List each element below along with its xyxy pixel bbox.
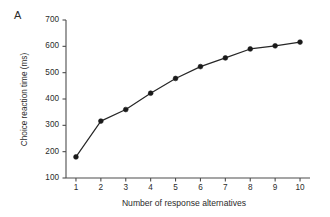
y-axis-label: Choice reaction time (ms) [20, 30, 29, 170]
y-tick-label: 300 [33, 121, 59, 129]
x-tick-label: 2 [93, 184, 109, 192]
data-point-marker [198, 64, 203, 69]
x-tick-label: 5 [168, 184, 184, 192]
x-tick-label: 3 [118, 184, 134, 192]
x-tick-label: 4 [143, 184, 159, 192]
x-tick-label: 8 [242, 184, 258, 192]
y-tick-label: 200 [33, 148, 59, 156]
data-point-marker [273, 43, 278, 48]
data-point-marker [123, 107, 128, 112]
y-tick-label: 500 [33, 69, 59, 77]
x-tick-label: 1 [68, 184, 84, 192]
data-point-marker [298, 40, 303, 45]
y-tick-label: 400 [33, 95, 59, 103]
data-point-marker [148, 91, 153, 96]
data-line [76, 42, 300, 157]
x-axis-label: Number of response alternatives [60, 198, 308, 208]
figure-panel: A Choice reaction time (ms) Number of re… [0, 0, 330, 217]
y-tick-label: 100 [33, 174, 59, 182]
y-tick-label: 600 [33, 42, 59, 50]
x-tick-label: 9 [267, 184, 283, 192]
y-tick-label: 700 [33, 16, 59, 24]
panel-label: A [14, 9, 22, 21]
axes [63, 20, 311, 182]
x-tick-label: 7 [217, 184, 233, 192]
x-tick-label: 6 [192, 184, 208, 192]
data-point-marker [74, 155, 79, 160]
data-point-marker [98, 119, 103, 124]
x-tick-label: 10 [292, 184, 308, 192]
data-series-layer [74, 40, 303, 160]
data-point-marker [173, 76, 178, 81]
data-point-marker [248, 47, 253, 52]
data-point-marker [223, 56, 228, 61]
